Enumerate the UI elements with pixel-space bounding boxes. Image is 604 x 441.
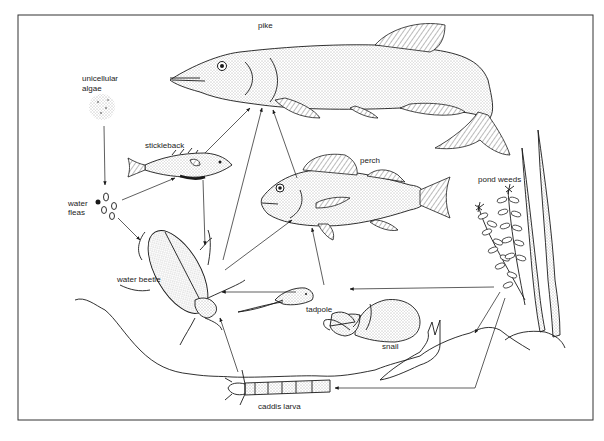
caddis-larva <box>225 370 330 405</box>
perch <box>261 154 450 240</box>
label-caddis-larva: caddis larva <box>258 402 301 411</box>
stickleback <box>128 148 232 178</box>
unicellular-algae <box>89 94 115 120</box>
label-pond-weeds: pond weeds <box>478 175 521 184</box>
arrow-weeds-to-tadpole <box>350 287 494 289</box>
food-web-diagram: pike unicellular algae stickleback perch… <box>0 0 604 441</box>
arrow-weeds-to-snail <box>475 292 500 333</box>
label-perch: perch <box>360 156 380 165</box>
arrow-beetle-to-perch <box>225 220 292 270</box>
label-fleas: fleas <box>68 208 85 217</box>
stickleback-eye-icon <box>219 161 222 164</box>
arrow-algae-to-fleas <box>104 126 105 185</box>
label-unicellular: unicellular <box>82 74 118 83</box>
pike <box>170 24 510 155</box>
label-water-beetle: water beetle <box>116 275 161 284</box>
pond-weeds <box>475 130 565 348</box>
tadpole <box>238 288 313 312</box>
label-stickleback: stickleback <box>145 141 185 150</box>
arrow-weeds-to-caddis <box>335 298 505 388</box>
arrow-stickleback-to-pike <box>205 108 250 153</box>
arrow-perch-to-pike <box>273 110 297 178</box>
label-pike: pike <box>258 21 273 30</box>
arrow-caddis-to-beetle <box>220 318 238 372</box>
label-snail: snail <box>382 342 399 351</box>
label-water: water <box>67 199 88 208</box>
arrow-fleas-to-beetle <box>118 218 140 240</box>
label-algae: algae <box>82 84 102 93</box>
arrow-beetle-to-pike <box>223 108 262 260</box>
arrow-stickleback-to-beetle <box>203 180 205 245</box>
water-fleas <box>96 193 117 220</box>
label-tadpole: tadpole <box>306 305 333 314</box>
pond-bottom-outline <box>75 299 530 377</box>
arrow-tadpole-to-perch <box>312 228 324 285</box>
arrow-fleas-to-stickleback <box>122 178 175 200</box>
